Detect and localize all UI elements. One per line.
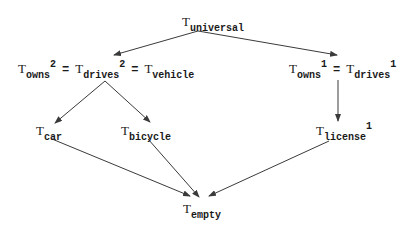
node-base: T	[36, 123, 44, 138]
node-subscript: drives	[354, 70, 390, 81]
node-superscript: 2	[50, 59, 56, 70]
edge-universal-to-right	[198, 31, 337, 55]
node-superscript: 1	[321, 59, 327, 70]
edge-license-to-empty	[209, 141, 329, 196]
node-superscript: 1	[366, 121, 372, 132]
node-base: T	[316, 123, 324, 138]
node-subscript: bicycle	[129, 132, 171, 143]
equals-sign: =	[333, 63, 340, 77]
node-subscript: license	[324, 132, 366, 143]
edge-bicycle-to-empty	[148, 139, 199, 197]
type-lattice-diagram: Tuniversal Towns2=Tdrives2=Tvehicle Town…	[0, 0, 412, 229]
node-subscript: empty	[191, 210, 221, 221]
node-subscript: universal	[190, 23, 244, 34]
node-universal: Tuniversal	[182, 14, 244, 30]
equals-sign: =	[131, 63, 138, 77]
equals-sign: =	[62, 63, 69, 77]
node-superscript: 2	[119, 59, 125, 70]
node-license1: Tlicense1	[316, 123, 372, 139]
node-base: T	[289, 61, 297, 76]
node-car: Tcar	[36, 123, 62, 139]
node-base: T	[18, 61, 26, 76]
node-owns1-drives1: Towns1=Tdrives1	[289, 61, 396, 77]
node-base: T	[182, 14, 190, 29]
edge-car-to-empty	[52, 139, 190, 196]
node-subscript: car	[44, 132, 62, 143]
node-empty: Tempty	[183, 201, 221, 217]
node-subscript: owns	[26, 70, 50, 81]
node-superscript: 1	[390, 59, 396, 70]
node-base: T	[346, 61, 354, 76]
node-base: T	[75, 61, 83, 76]
node-subscript: vehicle	[152, 70, 194, 81]
node-owns2-drives2-vehicle: Towns2=Tdrives2=Tvehicle	[18, 61, 194, 77]
edge-left-to-car	[55, 81, 105, 123]
node-base: T	[183, 201, 191, 216]
edge-left-to-bicycle	[105, 81, 150, 122]
node-subscript: owns	[297, 70, 321, 81]
node-bicycle: Tbicycle	[121, 123, 171, 139]
edge-universal-to-left	[114, 31, 198, 55]
node-base: T	[121, 123, 129, 138]
edges-layer	[0, 0, 412, 229]
node-subscript: drives	[83, 70, 119, 81]
